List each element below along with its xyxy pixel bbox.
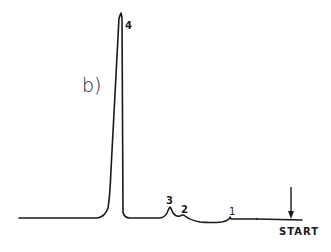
start-label: START [279,227,319,237]
baseline-marker-dot [256,218,258,220]
chromatogram-plot [0,0,331,252]
peak-label-1: 1 [229,207,235,217]
panel-label: b) [82,76,101,95]
peak-label-4: 4 [125,21,132,31]
peak-label-2: 2 [181,205,188,215]
chromatogram-trace [19,13,302,223]
peak-label-3: 3 [166,196,173,206]
start-arrow-head-icon [288,211,294,219]
